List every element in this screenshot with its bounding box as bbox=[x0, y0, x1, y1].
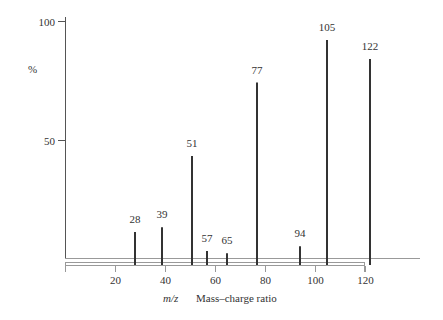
x-tick-label: 40 bbox=[160, 274, 172, 286]
peak-label-122: 122 bbox=[362, 40, 379, 52]
x-tick-label: 100 bbox=[307, 274, 324, 286]
peak-label-28: 28 bbox=[130, 213, 142, 225]
y-ticks: 50100 bbox=[39, 16, 67, 147]
peaks: 28395157657794105122 bbox=[130, 21, 379, 265]
y-tick-label: 50 bbox=[44, 135, 56, 147]
peak-label-94: 94 bbox=[295, 227, 307, 239]
x-tick-label: 60 bbox=[210, 274, 222, 286]
axes bbox=[65, 17, 420, 272]
peak-label-77: 77 bbox=[252, 64, 264, 76]
peak-label-57: 57 bbox=[202, 232, 214, 244]
peak-label-105: 105 bbox=[319, 21, 336, 33]
y-axis-label: % bbox=[28, 63, 37, 75]
peak-label-39: 39 bbox=[157, 208, 169, 220]
x-tick-label: 80 bbox=[260, 274, 272, 286]
x-axis-symbol: m/z bbox=[163, 292, 179, 304]
peak-label-65: 65 bbox=[222, 234, 234, 246]
mass-spectrum-chart: 50100 20406080100120 2839515765779410512… bbox=[0, 0, 443, 320]
peak-label-51: 51 bbox=[187, 137, 198, 149]
x-ticks: 20406080100120 bbox=[110, 266, 374, 286]
x-axis-label: Mass–charge ratio bbox=[196, 292, 277, 304]
y-tick-label: 100 bbox=[39, 16, 56, 28]
x-tick-label: 20 bbox=[110, 274, 122, 286]
x-tick-label: 120 bbox=[357, 274, 374, 286]
